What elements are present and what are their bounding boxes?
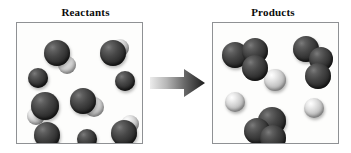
atom-light bbox=[304, 98, 324, 118]
reaction-arrow bbox=[150, 68, 206, 98]
atom-dark bbox=[100, 40, 126, 66]
atom-dark bbox=[34, 122, 60, 144]
atom-dark bbox=[77, 129, 97, 144]
atom-dark bbox=[44, 40, 70, 66]
atom-dark bbox=[31, 92, 59, 120]
atom-light bbox=[264, 69, 286, 91]
atom-dark bbox=[305, 63, 331, 89]
atom-dark bbox=[115, 71, 135, 91]
atom-light bbox=[225, 92, 245, 112]
atom-dark bbox=[111, 120, 137, 144]
reactants-particles bbox=[17, 23, 142, 143]
atom-dark bbox=[260, 125, 286, 144]
panel-title-reactants: Reactants bbox=[28, 6, 143, 19]
panel-title-products: Products bbox=[214, 6, 332, 19]
products-particles bbox=[213, 23, 338, 143]
reaction-diagram: Reactants Products bbox=[0, 0, 351, 153]
atom-dark bbox=[28, 68, 48, 88]
reactants-box bbox=[16, 22, 143, 144]
atom-dark bbox=[242, 55, 268, 81]
atom-dark bbox=[70, 88, 96, 114]
products-box bbox=[212, 22, 339, 144]
